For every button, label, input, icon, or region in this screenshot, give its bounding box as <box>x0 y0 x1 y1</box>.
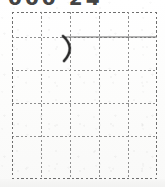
grid-line-horizontal-2 <box>12 70 157 71</box>
grid-line-horizontal-top <box>12 12 157 13</box>
grid-line-vertical-2 <box>70 12 71 178</box>
grid-line-horizontal-4 <box>12 136 157 137</box>
grid-line-vertical-1 <box>41 12 42 178</box>
grid-line-vertical-4 <box>128 12 129 178</box>
grid-line-horizontal-1 <box>12 37 157 38</box>
practice-grid <box>12 12 157 178</box>
grid-line-horizontal-3 <box>12 103 157 104</box>
grid-line-vertical-right <box>156 12 157 178</box>
grid-line-horizontal-bottom <box>12 178 157 179</box>
cropped-header-text-strip: 000 24 <box>0 0 165 9</box>
scanned-page: 000 24 <box>0 0 165 187</box>
grid-line-vertical-3 <box>99 12 100 178</box>
page-bottom-edge <box>0 179 165 187</box>
cropped-header-text: 000 24 <box>8 0 103 9</box>
grid-line-vertical-left <box>12 12 13 178</box>
